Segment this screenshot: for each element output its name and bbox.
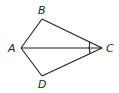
vertex-label-a: A <box>7 42 16 55</box>
segment-cd <box>42 48 102 76</box>
segment-ab <box>21 19 42 48</box>
kite-diagram: B A C D <box>0 0 119 93</box>
vertex-label-c: C <box>106 42 114 55</box>
angle-mark-bca <box>89 42 90 48</box>
segment-da <box>21 48 42 76</box>
segment-bc <box>42 19 102 48</box>
vertex-label-b: B <box>38 4 46 17</box>
vertex-label-d: D <box>38 78 46 91</box>
angle-mark-acd <box>89 48 90 54</box>
